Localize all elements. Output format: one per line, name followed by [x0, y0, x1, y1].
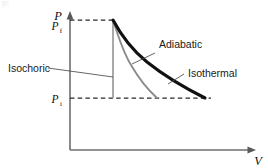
upper-pressure-subscript: f	[60, 27, 63, 35]
lower-pressure-symbol: P	[50, 93, 58, 105]
guide-lines-group	[70, 20, 211, 98]
isochoric-leader-line	[48, 68, 113, 77]
isothermal-annotation-label: Isothermal	[188, 67, 237, 79]
x-axis-arrow-icon	[248, 147, 257, 154]
adiabatic-leader-line	[132, 53, 155, 64]
leader-lines-group	[48, 53, 184, 84]
upper-pressure-symbol: P	[50, 20, 58, 32]
isochoric-annotation-label: Isochoric	[8, 62, 50, 74]
y-axis-arrow-icon	[67, 11, 74, 20]
lower-pressure-tick-label: P i	[50, 93, 62, 108]
adiabatic-annotation-label: Adiabatic	[159, 38, 202, 50]
x-axis-title: V	[254, 154, 263, 168]
axes-group	[67, 11, 256, 153]
pv-diagram-figure: P V P f P i Isochoric Adiabatic Isotherm…	[0, 0, 268, 168]
lower-pressure-subscript: i	[60, 100, 62, 108]
pv-diagram-canvas: P V P f P i Isochoric Adiabatic Isotherm…	[0, 0, 268, 168]
